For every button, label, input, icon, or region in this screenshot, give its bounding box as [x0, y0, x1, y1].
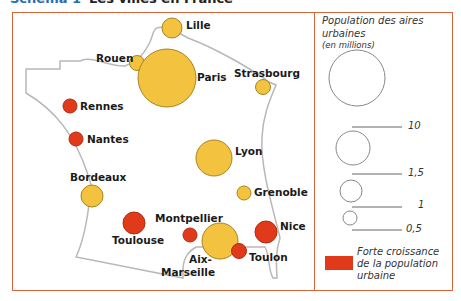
city-marker-lille[interactable] — [162, 18, 182, 38]
city-label-nantes: Nantes — [87, 133, 129, 145]
city-label-lille: Lille — [186, 19, 211, 31]
city-label-paris: Paris — [197, 71, 227, 83]
city-label-lyon: Lyon — [235, 145, 263, 157]
growth-legend-label: Forte croissance de la population urbain… — [357, 246, 452, 282]
legend-title-line1: Population des aires — [322, 14, 452, 27]
legend-title-line2: urbaines — [322, 27, 452, 40]
city-marker-paris[interactable] — [138, 49, 196, 107]
legend-circle-10 — [329, 50, 385, 106]
legend-circle-0-5 — [343, 211, 357, 225]
city-label-rennes: Rennes — [80, 100, 124, 112]
city-label-toulouse: Toulouse — [112, 234, 164, 246]
city-label-toulon: Toulon — [249, 251, 288, 263]
legend-value-0-5: 0,5 — [406, 223, 422, 234]
city-marker-toulon[interactable] — [232, 244, 247, 259]
legend: Population des aires urbaines (en millio… — [322, 14, 452, 50]
city-label-nice: Nice — [280, 220, 306, 232]
city-marker-lyon[interactable] — [196, 140, 232, 176]
growth-label-line3: urbaine — [357, 270, 452, 282]
city-marker-bordeaux[interactable] — [81, 185, 103, 207]
city-label-marseille: Marseille — [161, 266, 215, 278]
legend-value-10: 10 — [408, 120, 421, 131]
legend-circle-1-5 — [336, 131, 370, 165]
city-marker-montpellier[interactable] — [183, 228, 197, 242]
city-marker-toulouse[interactable] — [123, 212, 145, 234]
city-label-strasbourg: Strasbourg — [234, 67, 300, 79]
legend-unit: (en millions) — [322, 40, 452, 50]
city-marker-strasbourg[interactable] — [256, 80, 271, 95]
city-label-bordeaux: Bordeaux — [70, 171, 127, 183]
legend-value-1: 1 — [418, 199, 424, 210]
growth-swatch — [325, 256, 353, 270]
city-label-grenoble: Grenoble — [254, 186, 308, 198]
growth-label-line2: de la population — [357, 258, 452, 270]
city-label-montpellier: Montpellier — [155, 212, 224, 224]
city-marker-grenoble[interactable] — [237, 186, 251, 200]
legend-value-1-5: 1,5 — [408, 167, 424, 178]
legend-circle-1 — [340, 180, 362, 202]
city-marker-nantes[interactable] — [69, 132, 83, 146]
city-label-rouen: Rouen — [96, 52, 133, 64]
city-marker-rennes[interactable] — [63, 99, 77, 113]
growth-label-line1: Forte croissance — [357, 246, 452, 258]
city-label-aix: Aix- — [189, 253, 212, 265]
city-marker-nice[interactable] — [255, 221, 277, 243]
